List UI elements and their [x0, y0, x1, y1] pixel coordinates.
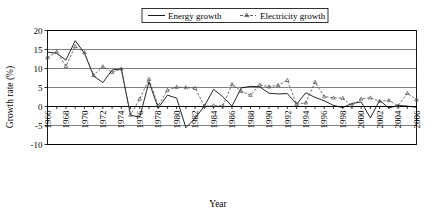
x-tick-label: 1966	[43, 110, 53, 129]
x-tick-label: 1972	[98, 111, 108, 129]
x-tick-label: 1974	[117, 110, 127, 129]
y-tick-label: 0	[38, 102, 43, 112]
legend-label-electricity: Electricity growth	[260, 11, 326, 21]
x-tick-label: 1968	[61, 110, 71, 129]
x-tick-label: 1992	[283, 111, 293, 129]
x-tick-label: 1970	[80, 110, 90, 129]
chart-legend: Energy growth Electricity growth	[142, 9, 328, 23]
y-tick-label: -10	[31, 140, 43, 150]
x-tick-label: 1984	[209, 110, 219, 129]
x-tick-label: 2002	[375, 111, 385, 129]
chart-figure: Energy growth Electricity growth 2015105…	[0, 0, 438, 211]
x-tick-label: 1990	[264, 110, 274, 129]
y-axis-title: Growth rate (%)	[5, 66, 16, 128]
x-tick-label: 1998	[338, 110, 348, 129]
x-tick-label: 1988	[246, 110, 256, 129]
y-tick-label: 20	[34, 26, 44, 36]
x-tick-label: 1980	[172, 110, 182, 129]
x-tick-label: 2000	[356, 110, 366, 129]
x-tick-label: 1996	[319, 110, 329, 129]
x-tick-label: 1994	[301, 110, 311, 129]
y-tick-label: 15	[34, 45, 44, 55]
x-tick-label: 1976	[135, 110, 145, 129]
x-tick-label: 2004	[393, 110, 403, 129]
legend-label-energy: Energy growth	[168, 11, 222, 21]
x-tick-label: 1986	[227, 110, 237, 129]
y-tick-label: 5	[38, 83, 43, 93]
x-tick-label: 1978	[153, 110, 163, 129]
x-axis-title: Year	[209, 199, 227, 209]
y-tick-label: 10	[34, 64, 44, 74]
growth-rate-line-chart: Energy growth Electricity growth 2015105…	[0, 0, 438, 211]
x-tick-label: 2006	[412, 110, 422, 129]
